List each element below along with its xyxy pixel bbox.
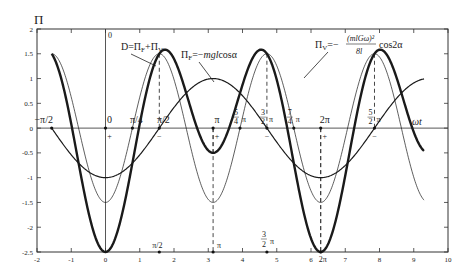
axis-sign: − — [265, 132, 270, 141]
axis-point-label: π — [242, 115, 246, 124]
x-tick-label: 10 — [445, 256, 453, 264]
y-tick-label: 0.5 — [24, 100, 33, 108]
axis-point-label: π — [215, 114, 220, 125]
chart: -2-101234567891021.510.50-0.5-1-1.5-2-2.… — [0, 0, 471, 280]
axis-sign: − — [372, 132, 377, 141]
axis-point-label: 2π — [320, 114, 330, 125]
x-tick-label: 7 — [344, 256, 348, 264]
axis-sign: + — [107, 132, 112, 141]
legend-v-numerator: (mlGω)² — [347, 34, 375, 43]
bottom-point-label: π/2 — [152, 241, 162, 250]
axis-sign: + — [215, 132, 220, 141]
axis-point-label: 5 — [234, 108, 238, 117]
axis-point-label: −π/2 — [34, 114, 52, 125]
axis-point-label: 5 — [368, 108, 372, 117]
plot-frame — [37, 29, 448, 252]
axis-point — [104, 127, 107, 130]
axis-point — [292, 127, 295, 130]
y-tick-label: 1 — [30, 75, 34, 83]
y-axis-zero-label: 0 — [108, 31, 112, 40]
y-axis-title: Π — [34, 12, 43, 27]
y-tick-label: -2.5 — [22, 249, 34, 257]
axis-point-label: 7 — [288, 108, 292, 117]
axis-point-label: π/4 — [130, 114, 143, 125]
axis-point-label: 0 — [107, 114, 112, 125]
axis-point — [158, 127, 161, 130]
x-tick-label: 0 — [104, 256, 108, 264]
x-tick-label: 6 — [309, 256, 313, 264]
axis-point-label: π — [376, 115, 380, 124]
y-tick-label: -1.5 — [22, 199, 34, 207]
axis-point-label: π — [296, 115, 300, 124]
x-axis-title: ωt — [412, 116, 422, 127]
axis-sign: − — [157, 132, 162, 141]
bottom-point — [319, 250, 322, 253]
legend-v-suffix: cos2α — [379, 39, 403, 50]
axis-point-label: π — [269, 115, 273, 124]
axis-point-label: 2 — [368, 117, 372, 126]
bottom-point — [211, 250, 214, 253]
axis-point — [319, 127, 322, 130]
axis-point — [238, 127, 241, 130]
y-tick-label: 2 — [30, 26, 34, 34]
axis-point-label: 2 — [261, 117, 265, 126]
bottom-point-label: 2π — [319, 255, 327, 264]
bottom-point — [265, 250, 268, 253]
x-tick-label: 8 — [378, 256, 382, 264]
x-tick-label: -1 — [68, 256, 74, 264]
y-tick-label: -0.5 — [22, 149, 34, 157]
axis-point-label: 4 — [288, 117, 292, 126]
axis-point — [211, 127, 214, 130]
bottom-point-label: π — [217, 241, 221, 250]
series-line-0 — [52, 50, 424, 252]
y-tick-label: -2 — [27, 224, 33, 232]
bottom-point-label: π — [270, 237, 274, 246]
bottom-point-label: 2 — [262, 240, 266, 249]
x-tick-label: 1 — [138, 256, 142, 264]
axis-point — [50, 127, 53, 130]
y-tick-label: -1 — [27, 174, 33, 182]
x-tick-label: 5 — [275, 256, 279, 264]
axis-point — [265, 127, 268, 130]
axis-point — [373, 127, 376, 130]
bottom-point-label: 3 — [262, 230, 266, 239]
axis-point-label: π/2 — [157, 114, 170, 125]
bottom-point — [158, 250, 161, 253]
x-tick-label: 4 — [241, 256, 245, 264]
axis-sign: + — [322, 132, 327, 141]
x-tick-label: 3 — [207, 256, 211, 264]
axis-point-label: 3 — [261, 108, 265, 117]
legend-f-label: ΠF=−mglcosα — [181, 49, 238, 62]
axis-point — [131, 127, 134, 130]
axis-point-label: 4 — [234, 117, 238, 126]
x-tick-label: -2 — [34, 256, 40, 264]
legend-v-leader — [304, 52, 328, 78]
legend-d-label: D=ΠF+ΠV — [121, 41, 163, 54]
x-tick-label: 2 — [172, 256, 176, 264]
legend-v-prefix: ΠV=− — [315, 39, 339, 52]
y-tick-label: 0 — [30, 125, 34, 133]
x-tick-label: 9 — [412, 256, 416, 264]
y-tick-label: 1.5 — [24, 50, 33, 58]
legend-v-denominator: 8l — [356, 47, 363, 56]
